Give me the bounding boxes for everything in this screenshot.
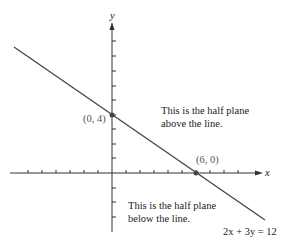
above-annotation-line2: above the line.: [161, 117, 223, 130]
below-annotation-line1: This is the half plane: [128, 199, 216, 212]
point-6-0: [194, 171, 199, 176]
y-axis-label: y: [110, 9, 115, 22]
point-b-label: (6, 0): [196, 153, 219, 166]
point-a-label: (0, 4): [83, 112, 106, 125]
x-axis-arrow-icon: [255, 171, 263, 176]
point-0-4: [110, 113, 115, 118]
x-axis-label: x: [265, 166, 270, 179]
above-annotation-line1: This is the half plane: [161, 104, 249, 117]
below-annotation-line2: below the line.: [128, 212, 190, 225]
y-ticks: [112, 41, 116, 217]
y-axis-arrow-icon: [110, 22, 115, 30]
equation-label: 2x + 3y = 12: [223, 225, 277, 238]
line-2x-3y-12: [14, 47, 265, 220]
